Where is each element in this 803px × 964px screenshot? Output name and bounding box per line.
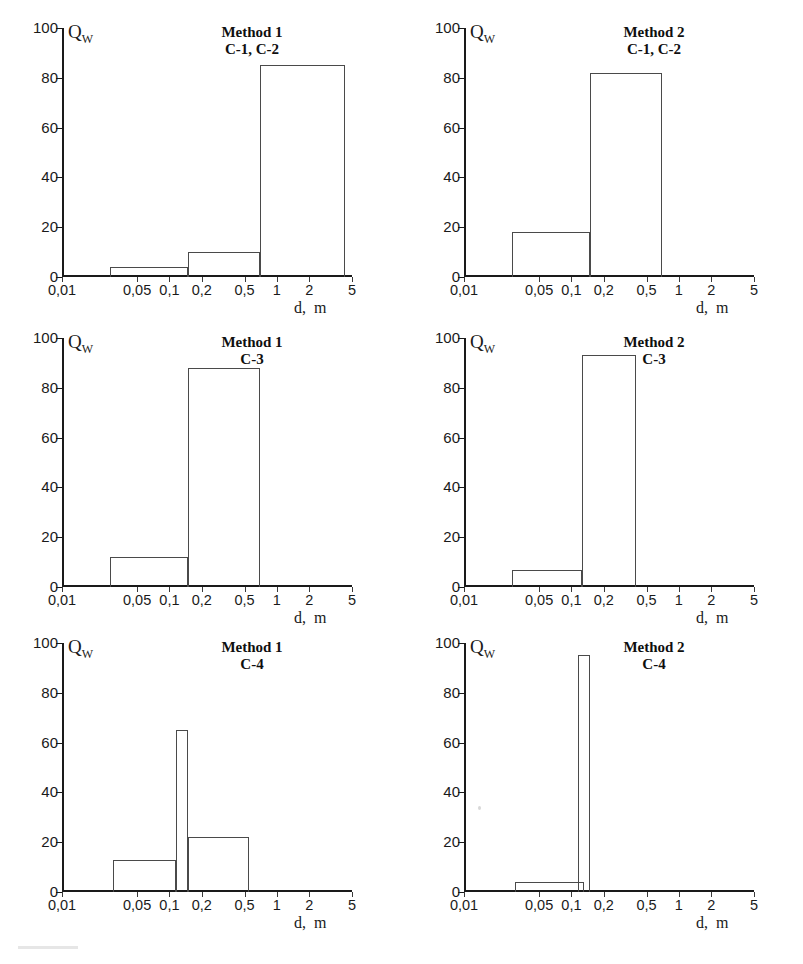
x-tick-label: 5 (348, 898, 356, 913)
y-tick-label: 100 (33, 20, 58, 35)
x-tick-label: 0,2 (192, 898, 212, 913)
x-tick-label: 0,01 (48, 898, 76, 913)
y-axis-label-subscript: W (484, 32, 495, 46)
x-tick-label: 0,05 (123, 283, 151, 298)
y-axis-label-subscript: W (82, 342, 93, 356)
panel-title-method: Method 2 (623, 334, 684, 350)
y-axis-line (62, 28, 64, 277)
histogram-bar (515, 882, 583, 892)
x-axis-label: d, m (294, 915, 326, 931)
x-tick-label: 0,05 (123, 898, 151, 913)
chart-panel: 0204060801000,010,050,10,20,5125QWMethod… (402, 617, 803, 922)
x-tick-label: 0,2 (192, 283, 212, 298)
y-axis-label-subscript: W (82, 647, 93, 661)
y-axis-line (62, 643, 64, 892)
x-tick-label: 5 (348, 593, 356, 608)
panel-title: Method 2C-3 (569, 334, 739, 368)
y-axis-label-symbol: Q (470, 21, 484, 42)
y-tick-label: 40 (443, 169, 460, 184)
histogram-bar (188, 252, 260, 277)
y-tick-label: 20 (443, 834, 460, 849)
x-tick-label: 2 (707, 898, 715, 913)
panel-title-sample: C-1, C-2 (569, 41, 739, 58)
chart-panel: 0204060801000,010,050,10,20,5125QWMethod… (402, 312, 803, 617)
x-tick-label: 2 (305, 593, 313, 608)
y-tick-label: 60 (41, 430, 58, 445)
y-axis-label: QW (470, 637, 495, 664)
y-axis-label-subscript: W (484, 342, 495, 356)
x-tick-label: 0,5 (234, 283, 254, 298)
x-tick-label: 0,01 (48, 593, 76, 608)
y-tick-label: 60 (41, 120, 58, 135)
x-tick-label: 0,5 (636, 898, 656, 913)
y-tick-label: 60 (443, 735, 460, 750)
histogram-figure: 0204060801000,010,050,10,20,5125QWMethod… (0, 0, 803, 964)
panel-title-method: Method 1 (221, 639, 282, 655)
y-axis-line (464, 338, 466, 587)
y-axis-label-symbol: Q (68, 331, 82, 352)
chart-panel: 0204060801000,010,050,10,20,5125QWMethod… (0, 312, 401, 617)
y-axis-label-subscript: W (484, 647, 495, 661)
panel-title-method: Method 1 (221, 24, 282, 40)
panel-title-sample: C-3 (569, 351, 739, 368)
histogram-bar (590, 73, 662, 277)
panel-title-sample: C-3 (167, 351, 337, 368)
panel-title: Method 2C-4 (569, 639, 739, 673)
x-tick-label: 0,05 (525, 593, 553, 608)
panel-title: Method 1C-1, C-2 (167, 24, 337, 58)
histogram-bar (512, 570, 582, 587)
x-tick-label: 1 (273, 898, 281, 913)
y-tick-label: 20 (41, 529, 58, 544)
histogram-bar (582, 355, 636, 587)
y-tick-label: 80 (41, 380, 58, 395)
histogram-bar (113, 860, 176, 892)
y-tick-label: 20 (41, 219, 58, 234)
x-tick-label: 0,5 (636, 283, 656, 298)
x-tick-label: 0,01 (450, 283, 478, 298)
x-tick-label: 0,05 (525, 898, 553, 913)
plot-area: 0204060801000,010,050,10,20,5125QWMethod… (464, 338, 754, 587)
x-tick-label: 0,01 (450, 898, 478, 913)
plot-area: 0204060801000,010,050,10,20,5125QWMethod… (62, 338, 352, 587)
plot-area: 0204060801000,010,050,10,20,5125QWMethod… (464, 28, 754, 277)
chart-panel: 0204060801000,010,050,10,20,5125QWMethod… (0, 2, 401, 307)
scan-artifact (18, 946, 78, 949)
x-tick-label: 2 (305, 283, 313, 298)
x-tick-label: 0,5 (234, 898, 254, 913)
y-axis-label: QW (470, 22, 495, 49)
y-axis-label: QW (470, 332, 495, 359)
y-tick-label: 80 (443, 380, 460, 395)
y-tick-label: 40 (41, 169, 58, 184)
panel-title: Method 2C-1, C-2 (569, 24, 739, 58)
x-tick-label: 0,01 (48, 283, 76, 298)
x-tick-label: 0,05 (123, 593, 151, 608)
y-axis-label-symbol: Q (68, 21, 82, 42)
x-tick-label: 0,5 (234, 593, 254, 608)
histogram-bar (578, 655, 590, 892)
y-axis-label: QW (68, 637, 93, 664)
x-tick-label: 5 (750, 898, 758, 913)
x-tick-label: 0,1 (561, 898, 581, 913)
y-tick-label: 80 (41, 70, 58, 85)
histogram-bar (176, 730, 188, 892)
x-tick-label: 0,1 (561, 283, 581, 298)
panel-title-method: Method 1 (221, 334, 282, 350)
panel-title-sample: C-4 (569, 656, 739, 673)
panel-title-method: Method 2 (623, 24, 684, 40)
y-axis-line (464, 28, 466, 277)
y-tick-label: 100 (33, 635, 58, 650)
y-axis-label-subscript: W (82, 32, 93, 46)
y-tick-label: 60 (41, 735, 58, 750)
y-tick-label: 80 (41, 685, 58, 700)
x-tick-label: 0,5 (636, 593, 656, 608)
x-tick-label: 0,01 (450, 593, 478, 608)
panel-title-method: Method 2 (623, 639, 684, 655)
y-tick-label: 40 (41, 784, 58, 799)
histogram-bar (188, 368, 260, 587)
plot-area: 0204060801000,010,050,10,20,5125QWMethod… (62, 643, 352, 892)
y-tick-label: 100 (33, 330, 58, 345)
panel-title-sample: C-1, C-2 (167, 41, 337, 58)
y-axis-line (464, 643, 466, 892)
y-tick-label: 100 (435, 330, 460, 345)
x-tick-label: 0,1 (561, 593, 581, 608)
